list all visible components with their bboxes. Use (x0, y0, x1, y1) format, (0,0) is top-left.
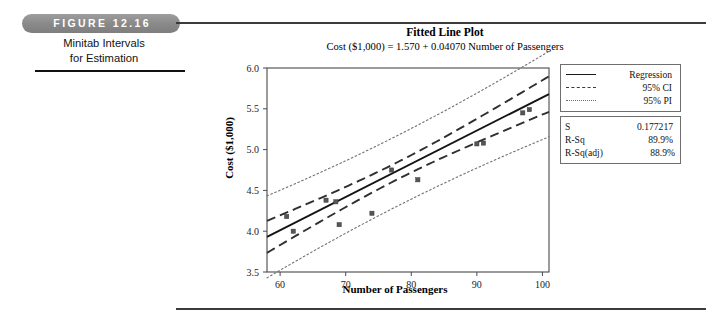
stats-key-s: S (565, 121, 617, 132)
legend-label-pi: 95% PI (599, 95, 676, 106)
legend-item-ci: 95% CI (565, 81, 676, 94)
data-point (324, 198, 328, 202)
fitted-line-plot: Fitted Line Plot Cost ($1,000) = 1.570 +… (205, 24, 706, 304)
figure-caption-rule (35, 70, 185, 72)
x-tick-label: 100 (535, 279, 550, 290)
y-tick-label: 6.0 (247, 63, 260, 74)
x-tick-label: 70 (341, 279, 351, 290)
stats-row-s: S 0.177217 (565, 120, 676, 133)
stats-row-rsqadj: R-Sq(adj) 88.9% (565, 146, 676, 159)
data-point (416, 178, 420, 182)
y-tick-label: 4.0 (247, 226, 260, 237)
x-tick-label: 80 (406, 279, 416, 290)
figure-caption: Minitab Intervals for Estimation (14, 36, 194, 65)
data-point (285, 214, 289, 218)
x-tick-label: 60 (275, 279, 285, 290)
legend-box: Regression 95% CI 95% PI (560, 64, 681, 112)
data-point (334, 200, 338, 204)
figure-caption-line-2: for Estimation (14, 51, 194, 66)
y-tick-label: 4.5 (247, 185, 260, 196)
stats-key-rsqadj: R-Sq(adj) (565, 147, 617, 158)
data-point (475, 142, 479, 146)
stats-value-rsq: 89.9% (617, 134, 676, 145)
legend-swatch-dashed-icon (565, 81, 599, 94)
legend-label-regression: Regression (599, 69, 676, 80)
data-point (527, 108, 531, 112)
data-point (337, 223, 341, 227)
data-point (370, 211, 374, 215)
stats-row-rsq: R-Sq 89.9% (565, 133, 676, 146)
y-tick-label: 5.0 (247, 144, 260, 155)
data-point (521, 111, 525, 115)
legend-swatch-solid-icon (565, 68, 599, 81)
figure-number-label: FIGURE 12.16 (22, 14, 180, 33)
data-point (390, 168, 394, 172)
legend-item-pi: 95% PI (565, 94, 676, 107)
legend-label-ci: 95% CI (599, 82, 676, 93)
stats-key-rsq: R-Sq (565, 134, 617, 145)
legend-swatch-dotted-icon (565, 94, 599, 107)
data-point (291, 229, 295, 233)
legend-item-regression: Regression (565, 68, 676, 81)
stats-value-s: 0.177217 (617, 121, 676, 132)
figure-bottom-rule (176, 308, 706, 310)
stats-box: S 0.177217 R-Sq 89.9% R-Sq(adj) 88.9% (560, 116, 681, 164)
figure-caption-line-1: Minitab Intervals (14, 36, 194, 51)
figure-number-badge: FIGURE 12.16 (22, 14, 180, 33)
x-tick-label: 90 (472, 279, 482, 290)
data-point (481, 141, 485, 145)
y-tick-label: 5.5 (247, 103, 260, 114)
y-tick-label: 3.5 (247, 267, 260, 278)
stats-value-rsqadj: 88.9% (617, 147, 676, 158)
